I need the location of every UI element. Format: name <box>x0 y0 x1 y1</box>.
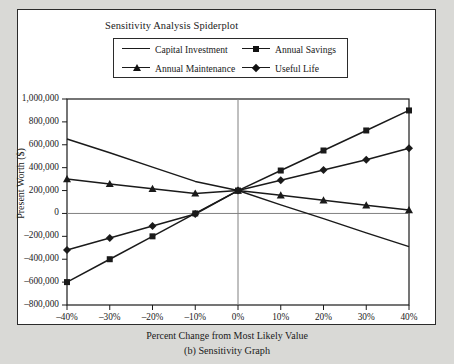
y-axis-tick-label: 800,000 <box>0 116 59 126</box>
x-axis-tick-label: 40% <box>387 312 431 322</box>
legend-label: Annual Savings <box>275 44 336 55</box>
y-axis-tick-label: –600,000 <box>0 276 59 286</box>
x-axis-tick-label: –30% <box>88 312 132 322</box>
legend-item-capital-investment: Capital Investment <box>122 39 228 59</box>
y-axis-tick-label: –200,000 <box>0 230 59 240</box>
legend-item-annual-savings: Annual Savings <box>242 39 336 59</box>
figure-page: Sensitivity Analysis Spiderplot Capital … <box>0 0 454 364</box>
line-sample-icon <box>122 43 150 55</box>
y-axis-tick-label: –800,000 <box>0 299 59 309</box>
x-axis-tick-label: 0% <box>216 312 260 322</box>
figure-caption: (b) Sensitivity Graph <box>0 345 454 356</box>
legend-item-useful-life: Useful Life <box>242 58 319 78</box>
chart-legend: Capital Investment Annual Savings Annual… <box>113 38 348 78</box>
line-triangle-marker-icon <box>122 62 150 74</box>
y-axis-tick-label: –400,000 <box>0 253 59 263</box>
x-axis-label: Percent Change from Most Likely Value <box>0 330 454 341</box>
x-axis-tick-label: –20% <box>131 312 175 322</box>
legend-item-annual-maintenance: Annual Maintenance <box>122 58 235 78</box>
legend-label: Useful Life <box>275 63 319 74</box>
y-axis-tick-label: 1,000,000 <box>0 93 59 103</box>
x-axis-tick-label: 10% <box>259 312 303 322</box>
legend-row: Capital Investment Annual Savings <box>114 39 347 59</box>
x-axis-tick-label: –40% <box>45 312 89 322</box>
y-axis-tick-label: 200,000 <box>0 185 59 195</box>
x-axis-tick-label: 20% <box>302 312 346 322</box>
y-axis-tick-label: 0 <box>0 207 59 217</box>
legend-label: Annual Maintenance <box>155 63 235 74</box>
y-axis-tick-label: 600,000 <box>0 139 59 149</box>
legend-row: Annual Maintenance Useful Life <box>114 58 347 78</box>
chart-title: Sensitivity Analysis Spiderplot <box>105 20 238 31</box>
line-diamond-marker-icon <box>242 62 270 74</box>
line-square-marker-icon <box>242 43 270 55</box>
x-axis-tick-label: –10% <box>173 312 217 322</box>
y-axis-tick-label: 400,000 <box>0 162 59 172</box>
x-axis-tick-label: 30% <box>344 312 388 322</box>
legend-label: Capital Investment <box>155 44 228 55</box>
